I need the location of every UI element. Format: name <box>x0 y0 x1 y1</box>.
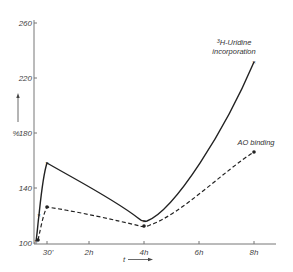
y-axis-arrow-icon <box>16 93 19 122</box>
svg-text:×: × <box>45 160 49 166</box>
svg-text:×: × <box>252 59 256 65</box>
xtick-2h: 2h <box>84 248 94 257</box>
xtick-6h: 6h <box>195 248 204 257</box>
ytick-180: 180 <box>19 129 33 138</box>
xtick-30m: 30' <box>43 248 54 257</box>
series-uridine-markers: × × × × × <box>34 59 256 244</box>
x-axis-label: t <box>123 255 126 264</box>
svg-text:3H-Uridine: 3H-Uridine <box>217 38 252 47</box>
ytick-260: 260 <box>18 19 33 28</box>
series-ao-line <box>38 152 254 240</box>
series-ao-markers <box>36 150 256 242</box>
annotation-ao-binding: AO binding <box>236 138 275 147</box>
xtick-4h: 4h <box>140 248 149 257</box>
uridine-label-line2: incorporation <box>212 47 255 56</box>
line-chart: 100 140 180 220 260 % 30' 2h 4h 6h 8h t … <box>0 0 293 272</box>
xtick-8h: 8h <box>250 248 259 257</box>
y-axis-label: % <box>12 129 19 138</box>
uridine-label-line1: H-Uridine <box>220 38 252 47</box>
ytick-100: 100 <box>19 239 33 248</box>
annotation-uridine: 3H-Uridine incorporation <box>212 38 255 56</box>
svg-text:×: × <box>37 212 41 218</box>
ytick-140: 140 <box>19 184 33 193</box>
ytick-220: 220 <box>18 74 33 83</box>
series-uridine-line <box>36 62 254 241</box>
svg-text:×: × <box>142 218 146 224</box>
x-axis-arrow-icon <box>128 258 153 261</box>
